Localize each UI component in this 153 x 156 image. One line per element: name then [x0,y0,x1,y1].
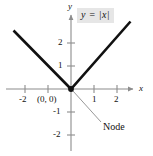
x-axis-label: x [139,84,143,93]
y-axis-label: y [68,2,72,11]
x-tick-label-1: 1 [92,95,97,104]
node-leader-line [73,91,101,122]
node-point-marker [68,86,74,92]
x-tick-label-neg2: -2 [19,95,27,104]
node-annotation-label: Node [103,122,125,132]
y-tick-label-1: 1 [58,61,63,70]
plot-canvas [0,0,153,156]
equation-label: y = |x| [77,8,114,23]
absolute-value-graph-figure: y = |x| x y -2 1 2 2 1 -1 -2 (0, 0) Node [0,0,153,156]
y-tick-label-neg1: -1 [53,107,61,116]
origin-coordinate-label: (0, 0) [37,95,57,104]
y-tick-label-2: 2 [58,38,63,47]
x-tick-label-2: 2 [114,95,119,104]
absolute-value-curve [14,22,131,90]
y-tick-label-neg2: -2 [53,130,61,139]
